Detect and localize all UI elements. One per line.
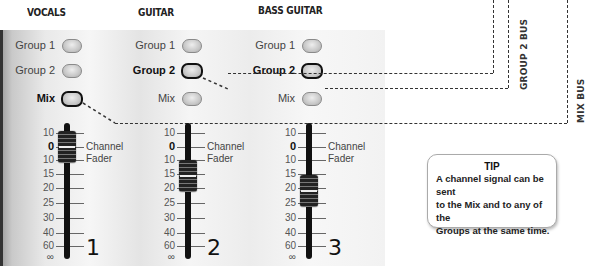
scale-tick <box>298 133 326 134</box>
scale-tick <box>177 218 205 219</box>
scale-label: 0 <box>151 141 175 151</box>
ch1-mix-label: Mix <box>0 92 55 104</box>
scale-label: 60 <box>30 241 54 251</box>
group2-bus-label: GROUP 2 BUS <box>519 19 529 90</box>
scale-label: 60 <box>272 241 296 251</box>
scale-label: 10 <box>30 155 54 165</box>
ch1-group2-button[interactable] <box>62 64 82 78</box>
scale-tick <box>298 233 326 234</box>
scale-label: 15 <box>30 169 54 179</box>
scale-tick <box>56 233 84 234</box>
ch2-group2-label: Group 2 <box>115 64 175 76</box>
tip-body-line-3: Groups at the same time. <box>428 224 556 237</box>
scale-label: 40 <box>272 228 296 238</box>
scale-label: ∞ <box>151 252 175 262</box>
scale-label: 15 <box>151 169 175 179</box>
scale-tick <box>177 147 205 148</box>
scale-tick <box>177 233 205 234</box>
scale-label: 60 <box>151 241 175 251</box>
scale-tick <box>56 218 84 219</box>
scale-label: 20 <box>272 183 296 193</box>
scale-tick <box>56 174 84 175</box>
ch3-group1-label: Group 1 <box>235 39 295 51</box>
scale-label: ∞ <box>272 252 296 262</box>
mix-bus-label: MIX BUS <box>576 79 586 123</box>
ch2-mix-button[interactable] <box>182 92 202 106</box>
scale-label: 25 <box>151 198 175 208</box>
ch3-mix-label: Mix <box>235 92 295 104</box>
ch1-group2-label: Group 2 <box>0 64 55 76</box>
tip-title: TIP <box>428 161 556 172</box>
scale-tick <box>56 188 84 189</box>
scale-label: 10 <box>151 128 175 138</box>
scale-label: 0 <box>30 141 54 151</box>
channel-fader-label: Fader <box>86 153 112 165</box>
tip-box: TIP A channel signal can be sent to the … <box>427 154 557 228</box>
ch2-group2-button[interactable] <box>181 63 203 79</box>
ch2-mix-label: Mix <box>115 92 175 104</box>
channel-fader-label: Fader <box>328 153 354 165</box>
ch2-group2-connector <box>202 74 230 94</box>
scale-tick <box>177 246 205 247</box>
ch3-group1-button[interactable] <box>302 39 322 53</box>
scale-tick <box>298 147 326 148</box>
scale-tick <box>177 203 205 204</box>
ch2-group1-label: Group 1 <box>115 39 175 51</box>
mix-bus-line <box>115 123 567 124</box>
tip-body-line-2: to the Mix and to any of the <box>428 198 556 224</box>
tip-body-line-1: A channel signal can be sent <box>428 172 556 198</box>
scale-tick <box>56 203 84 204</box>
ch1-mix-button[interactable] <box>61 91 83 107</box>
ch3-group2-button[interactable] <box>301 63 323 79</box>
ch2-group1-button[interactable] <box>182 39 202 53</box>
scale-label: 10 <box>272 128 296 138</box>
scale-label: 30 <box>272 213 296 223</box>
scale-tick <box>298 218 326 219</box>
mix-bus-connector <box>82 100 118 125</box>
channel-fader-label: Channel <box>207 141 244 153</box>
ch1-group1-label: Group 1 <box>0 39 55 51</box>
scale-label: 15 <box>272 169 296 179</box>
scale-label: 20 <box>30 183 54 193</box>
group2-bus-line-ch3 <box>325 88 508 89</box>
mix-bus-line-vertical <box>567 0 568 123</box>
scale-label: 25 <box>30 198 54 208</box>
ch3-group2-label: Group 2 <box>235 64 295 76</box>
channel-title-guitar: GUITAR <box>138 6 174 19</box>
scale-label: ∞ <box>30 252 54 262</box>
scale-tick <box>56 246 84 247</box>
scale-tick <box>298 246 326 247</box>
fader-knob-1[interactable] <box>58 131 76 163</box>
scale-label: 0 <box>272 141 296 151</box>
scale-label: 10 <box>151 155 175 165</box>
scale-label: 30 <box>151 213 175 223</box>
scale-tick <box>177 133 205 134</box>
group2-bus-line-ch3-vertical <box>508 0 509 88</box>
channel-fader-label: Channel <box>86 141 123 153</box>
scale-label: 25 <box>272 198 296 208</box>
channel-number-3: 3 <box>328 235 342 260</box>
channel-fader-label: Fader <box>207 153 233 165</box>
scale-label: 40 <box>30 228 54 238</box>
scale-label: 20 <box>151 183 175 193</box>
group2-bus-line-ch2 <box>228 73 493 74</box>
scale-label: 10 <box>272 155 296 165</box>
fader-knob-2[interactable] <box>179 160 197 192</box>
scale-label: 40 <box>151 228 175 238</box>
scale-label: 30 <box>30 213 54 223</box>
scale-tick <box>298 160 326 161</box>
scale-label: 10 <box>30 128 54 138</box>
ch3-mix-button[interactable] <box>302 92 322 106</box>
channel-title-bass-guitar: BASS GUITAR <box>258 4 322 17</box>
channel-number-1: 1 <box>86 235 100 260</box>
channel-fader-label: Channel <box>328 141 365 153</box>
channel-title-vocals: VOCALS <box>27 6 66 19</box>
channel-number-2: 2 <box>207 235 221 260</box>
group2-bus-line-ch2-vertical <box>493 0 494 73</box>
fader-knob-3[interactable] <box>300 175 318 207</box>
ch1-group1-button[interactable] <box>62 39 82 53</box>
